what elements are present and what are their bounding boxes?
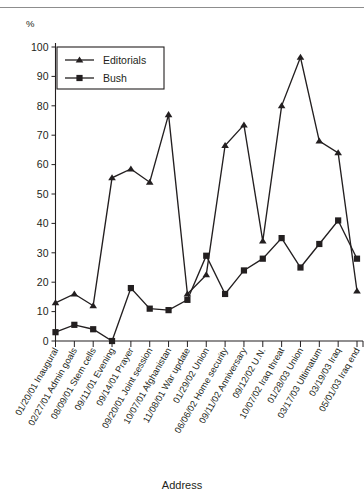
data-point-marker (165, 111, 173, 117)
y-tick-label: 60 (37, 158, 49, 170)
series-line-editorials (56, 57, 358, 305)
data-point-marker (127, 166, 135, 172)
data-point-marker (353, 288, 361, 294)
y-tick-label: 90 (37, 70, 49, 82)
data-point-marker (335, 217, 341, 223)
y-tick-label: 80 (37, 100, 49, 112)
line-chart-svg: 0102030405060708090100 01/20/01 Inaugura… (0, 0, 364, 501)
data-point-marker (52, 329, 58, 335)
data-point-marker (316, 138, 324, 144)
data-point-marker (354, 256, 360, 262)
legend-label: Editorials (103, 54, 146, 66)
chart-legend[interactable]: EditorialsBush (57, 47, 164, 89)
figure-container: % 0102030405060708090100 01/20/01 Inaugu… (0, 0, 364, 501)
data-point-marker (184, 297, 190, 303)
y-tick-label: 30 (37, 247, 49, 259)
data-point-marker (259, 238, 267, 244)
data-point-marker (278, 102, 286, 108)
y-axis: 0102030405060708090100 (31, 41, 56, 347)
data-series-group (52, 54, 361, 344)
data-point-marker (222, 291, 228, 297)
data-point-marker (203, 253, 209, 259)
data-point-marker (165, 307, 171, 313)
data-point-marker (202, 271, 210, 277)
data-point-marker (90, 326, 96, 332)
data-point-marker (279, 235, 285, 241)
data-point-marker (147, 306, 153, 312)
series-line-bush (56, 220, 358, 341)
data-point-marker (297, 54, 305, 60)
y-tick-label: 10 (37, 305, 49, 317)
data-point-marker (334, 149, 342, 155)
data-point-marker (316, 241, 322, 247)
legend-label: Bush (103, 72, 127, 84)
x-axis (56, 341, 364, 347)
data-point-marker (71, 322, 77, 328)
x-tick-labels: 01/20/01 Inaugural02/27/01 Admin goals08… (13, 346, 361, 435)
data-point-marker (89, 302, 97, 308)
data-point-marker (297, 264, 303, 270)
y-tick-label: 0 (43, 335, 49, 347)
legend-marker-square-icon (76, 75, 82, 81)
y-tick-label: 20 (37, 276, 49, 288)
y-tick-label: 40 (37, 217, 49, 229)
data-point-marker (128, 285, 134, 291)
y-tick-label: 70 (37, 129, 49, 141)
data-point-marker (108, 174, 116, 180)
plot-area: 0102030405060708090100 01/20/01 Inaugura… (0, 0, 364, 501)
data-point-marker (52, 299, 60, 305)
x-axis-title: Address (0, 479, 364, 491)
data-point-marker (260, 256, 266, 262)
y-tick-label: 100 (31, 41, 49, 53)
y-tick-label: 50 (37, 188, 49, 200)
data-point-marker (241, 267, 247, 273)
data-point-marker (240, 121, 248, 127)
data-point-marker (71, 290, 79, 296)
data-point-marker (109, 338, 115, 344)
